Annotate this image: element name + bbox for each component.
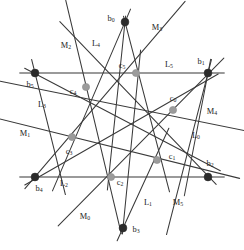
vertex-c0	[169, 106, 176, 113]
diagram-background	[0, 0, 244, 250]
vertex-b3	[119, 224, 127, 232]
geometric-configuration-diagram: c0c1c2c3c4c5b0b1b2b3b4b5L0L1L2L3L4L5M0M1…	[0, 0, 244, 250]
vertex-c5	[132, 69, 139, 76]
figure-canvas: c0c1c2c3c4c5b0b1b2b3b4b5L0L1L2L3L4L5M0M1…	[0, 0, 244, 250]
vertex-b2	[204, 173, 212, 181]
vertex-b0	[121, 18, 129, 26]
vertex-c3	[68, 133, 75, 140]
vertex-b1	[204, 69, 212, 77]
vertex-b4	[31, 173, 39, 181]
vertex-c2	[107, 173, 114, 180]
vertex-c1	[153, 156, 160, 163]
vertex-c4	[82, 83, 89, 90]
vertex-b5	[31, 69, 39, 77]
